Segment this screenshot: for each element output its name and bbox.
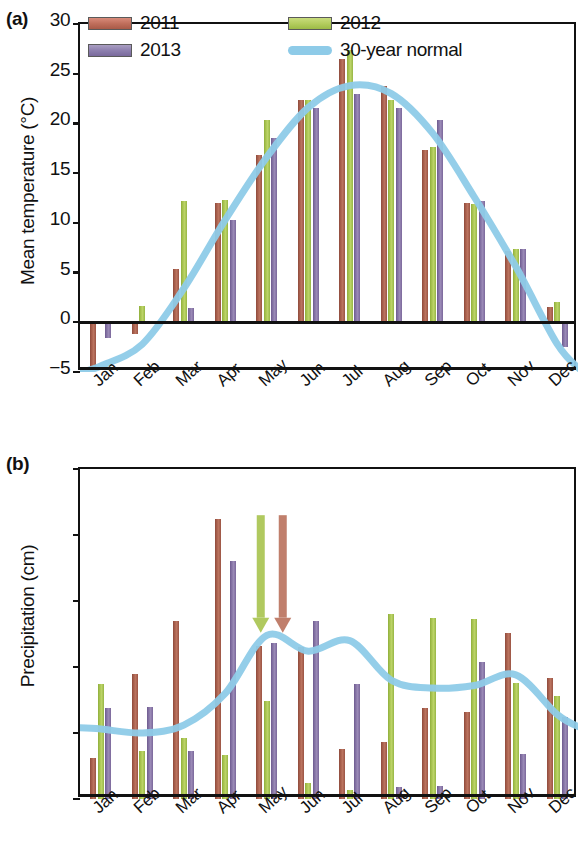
bar-2013-Oct [479, 201, 485, 322]
y-tick-label: 20 [18, 108, 70, 130]
legend-item-2013: 2013 [88, 39, 181, 61]
bar-2013-Apr [230, 220, 236, 322]
y-tick [73, 600, 80, 602]
bar-2011-May [256, 155, 262, 322]
bar-2012-Aug [388, 100, 394, 323]
bar-2013-Dec [562, 322, 568, 347]
line-swatch-normal-icon [288, 46, 332, 55]
y-tick-label: 15 [18, 158, 70, 180]
y-tick-label: 5 [18, 258, 70, 280]
bar-2011-Oct [464, 203, 470, 322]
y-tick-label: 10 [18, 208, 70, 230]
bar-2011-Jan [90, 758, 96, 799]
y-tick [73, 534, 80, 536]
bar-swatch-2012-icon [288, 17, 332, 30]
y-tick-label: −5 [18, 357, 70, 379]
bar-swatch-2013-icon [88, 44, 132, 57]
bar-2011-Feb [132, 322, 138, 334]
bar-2012-Feb [139, 306, 145, 322]
bar-2013-Sep [437, 120, 443, 322]
bar-2012-Dec [554, 302, 560, 322]
bar-2013-May [271, 643, 277, 799]
bar-2012-Aug [388, 614, 394, 799]
panel-a-right-frame [574, 24, 577, 370]
y-tick [73, 23, 80, 25]
y-tick [73, 666, 80, 668]
bar-2011-Jun [298, 647, 304, 799]
bar-2011-Sep [422, 150, 428, 322]
bar-2011-Mar [173, 269, 179, 323]
legend-label-2012: 2012 [340, 12, 381, 34]
y-tick [73, 798, 80, 800]
bar-2012-Sep [430, 147, 436, 322]
panel-a-temperature: (a) Mean temperature (°C) 302520151050−5… [0, 0, 584, 420]
bar-2011-Aug [381, 742, 387, 799]
bar-2013-Jun [313, 108, 319, 323]
bar-2012-Mar [181, 201, 187, 322]
legend-label-normal: 30-year normal [340, 39, 462, 61]
bar-2011-Apr [215, 519, 221, 799]
bar-2012-Dec [554, 696, 560, 799]
bar-2011-Jul [339, 59, 345, 322]
bar-2011-Apr [215, 203, 221, 322]
bar-2012-Jun [305, 100, 311, 323]
bar-2011-Jun [298, 100, 304, 323]
bar-2012-Oct [471, 204, 477, 322]
legend-item-2012: 2012 [288, 12, 381, 34]
y-tick [73, 468, 80, 470]
y-tick [73, 371, 80, 373]
y-tick [73, 73, 80, 75]
y-tick [73, 122, 80, 124]
panel-b-right-frame [574, 469, 577, 797]
panel-b-annotation-arrows [80, 469, 578, 799]
bar-2011-May [256, 646, 262, 799]
bar-2012-Nov [513, 249, 519, 323]
y-tick [73, 271, 80, 273]
panel-b-x-tick-labels: JanFebMarAprMayJunJulAugSepOctNovDec [78, 801, 584, 861]
legend: 2011 2013 2012 30-year normal [88, 10, 508, 66]
bar-2011-Aug [381, 86, 387, 323]
bar-2013-Jul [354, 94, 360, 323]
y-tick [73, 172, 80, 174]
panel-a-zero-line [80, 321, 576, 324]
bar-2013-Jul [354, 684, 360, 799]
y-tick [73, 222, 80, 224]
bar-2013-Aug [396, 108, 402, 323]
bar-2011-Jan [90, 322, 96, 370]
bar-2011-Mar [173, 621, 179, 799]
legend-label-2013: 2013 [140, 39, 181, 61]
y-tick [73, 321, 80, 323]
y-tick [73, 732, 80, 734]
bar-swatch-2011-icon [88, 17, 132, 30]
panel-a-plot-area [78, 22, 576, 370]
bar-2013-Nov [520, 249, 526, 323]
bar-2011-Oct [464, 712, 470, 799]
bar-2013-Apr [230, 561, 236, 799]
bar-2012-Jul [347, 50, 353, 322]
legend-label-2011: 2011 [140, 12, 179, 34]
panel-a-normal-curve [80, 24, 578, 372]
y-tick-label: 30 [18, 9, 70, 31]
bar-2012-Sep [430, 618, 436, 799]
bar-2012-Apr [222, 200, 228, 322]
bar-2013-May [271, 138, 277, 322]
y-tick-label: 0 [18, 307, 70, 329]
panel-b-normal-curve [80, 469, 578, 799]
panel-b-precipitation: (b) Precipitation (cm) 2520151050 JanFeb… [0, 420, 584, 861]
y-tick-label: 25 [18, 59, 70, 81]
bar-2012-Jan [98, 684, 104, 799]
bar-2012-May [264, 120, 270, 322]
bar-2011-Feb [132, 674, 138, 799]
bar-2011-Nov [505, 251, 511, 323]
bar-2011-Nov [505, 633, 511, 799]
bar-2012-Oct [471, 619, 477, 799]
bar-2013-Jun [313, 621, 319, 799]
panel-b-y-axis-title: Precipitation (cm) [17, 506, 39, 726]
bar-2013-Oct [479, 662, 485, 799]
legend-item-2011: 2011 [88, 12, 179, 34]
bar-2011-Sep [422, 708, 428, 799]
bar-2011-Jul [339, 749, 345, 799]
bar-2012-May [264, 701, 270, 799]
panel-b-tag: (b) [6, 453, 29, 475]
bar-2011-Dec [547, 678, 553, 799]
